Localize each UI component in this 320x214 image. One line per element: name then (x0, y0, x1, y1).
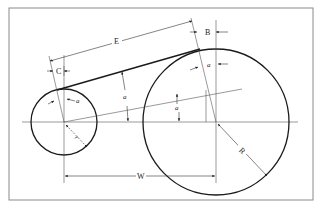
label-C: C (56, 67, 61, 76)
large-tangent-normal (191, 18, 216, 122)
label-a-mid-left: a (123, 93, 127, 101)
label-a-small: a (76, 97, 80, 105)
label-a-large: a (207, 61, 211, 69)
label-B: B (205, 28, 210, 37)
belt-drive-diagram: E C B a a a a r R W (0, 0, 320, 214)
label-E: E (114, 37, 119, 46)
label-a-mid-right: a (175, 104, 179, 112)
belt-tangent-line (57, 49, 200, 90)
parallel-line (64, 89, 242, 122)
label-W: W (137, 172, 145, 181)
label-r: r (73, 134, 81, 142)
